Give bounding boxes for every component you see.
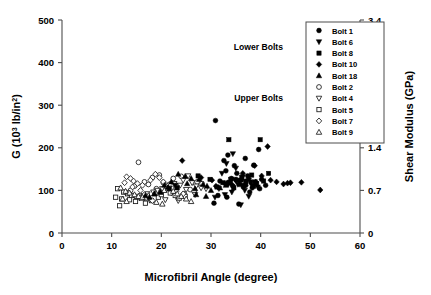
data-point [122, 180, 127, 186]
data-point [227, 138, 231, 142]
data-point [274, 179, 279, 185]
data-point [143, 201, 147, 205]
legend-item-label[interactable]: Bolt 1 [332, 27, 354, 36]
y-axis-title: G (103 lb/in2) [10, 94, 22, 159]
data-point [219, 171, 224, 176]
legend-item-label[interactable]: Bolt 5 [332, 106, 354, 115]
legend-marker [317, 107, 321, 111]
data-point [266, 171, 270, 175]
data-point [262, 179, 266, 183]
y-tick-label: 100 [38, 185, 54, 196]
data-point [263, 183, 268, 188]
data-point [160, 201, 165, 206]
data-point [229, 177, 233, 181]
y-tick-label: 400 [38, 57, 54, 68]
data-point [136, 160, 141, 165]
legend-item-label[interactable]: Bolt 18 [332, 72, 357, 81]
y-tick-label: 200 [38, 142, 54, 153]
annotation-label: Lower Bolts [234, 42, 283, 52]
annotation-label: Upper Bolts [234, 93, 283, 103]
data-point [117, 204, 121, 208]
plot-annotations: Lower BoltsUpper Bolts [234, 42, 283, 103]
legend: Bolt 1Bolt 6Bolt 8Bolt 10Bolt 18Bolt 2Bo… [306, 22, 384, 143]
legend-item-label[interactable]: Bolt 2 [332, 83, 353, 92]
y-right-tick-label: 1.4 [368, 142, 382, 153]
data-point [212, 201, 217, 206]
data-point [184, 181, 189, 186]
x-tick-label: 10 [106, 240, 117, 251]
legend-item-label[interactable]: Bolt 9 [332, 128, 353, 137]
legend-item-label[interactable]: Bolt 8 [332, 49, 353, 58]
data-point [247, 190, 252, 195]
data-point [246, 194, 251, 199]
data-point [163, 198, 168, 203]
data-point [221, 181, 225, 185]
legend-item-label[interactable]: Bolt 4 [332, 94, 354, 103]
data-point [265, 144, 270, 150]
y-right-tick-label: 0.7 [368, 185, 381, 196]
y-tick-label: 300 [38, 100, 54, 111]
x-tick-label: 50 [305, 240, 316, 251]
data-point [229, 190, 234, 195]
data-point [213, 118, 218, 123]
x-tick-label: 0 [59, 240, 64, 251]
data-point [242, 188, 247, 193]
legend-marker [317, 28, 322, 33]
data-point [242, 183, 246, 187]
data-point [256, 147, 261, 152]
data-point [233, 166, 238, 171]
data-point [240, 175, 244, 179]
data-point [114, 195, 118, 199]
data-point [179, 158, 184, 164]
x-tick-label: 20 [156, 240, 167, 251]
legend-item-label[interactable]: Bolt 7 [332, 117, 353, 126]
data-point [268, 177, 273, 183]
x-tick-label: 60 [355, 240, 366, 251]
scatter-plot: 0102030405060010020030040050000.71.42.12… [0, 0, 431, 295]
data-point [133, 199, 137, 203]
series-bolt-1 [212, 118, 268, 206]
legend-marker [317, 51, 321, 55]
x-axis-title: Microfibril Angle (degree) [145, 271, 278, 283]
data-point [224, 161, 229, 166]
data-point [299, 179, 304, 185]
data-point [230, 152, 235, 157]
y-tick-label: 0 [49, 228, 54, 239]
y-axis-right-title: Shear Modulus (GPa) [403, 71, 415, 183]
x-tick-label: 30 [206, 240, 217, 251]
data-point [250, 173, 254, 177]
chart-page: 0102030405060010020030040050000.71.42.12… [0, 0, 431, 295]
data-point [203, 194, 208, 199]
legend-item-label[interactable]: Bolt 10 [332, 60, 357, 69]
x-tick-label: 40 [255, 240, 266, 251]
data-point [225, 153, 230, 158]
y-axis-left-ticks: 0100200300400500 [38, 15, 62, 239]
data-point [243, 156, 248, 161]
data-point [234, 171, 239, 176]
y-tick-label: 500 [38, 15, 54, 26]
y-right-tick-label: 0 [368, 228, 373, 239]
data-point [180, 178, 185, 183]
legend-marker [317, 85, 322, 90]
data-points [114, 118, 323, 208]
data-point [175, 186, 179, 190]
data-point [318, 187, 323, 193]
data-point [258, 138, 262, 142]
legend-item-label[interactable]: Bolt 6 [332, 38, 353, 47]
x-axis-ticks: 0102030405060 [59, 233, 365, 251]
